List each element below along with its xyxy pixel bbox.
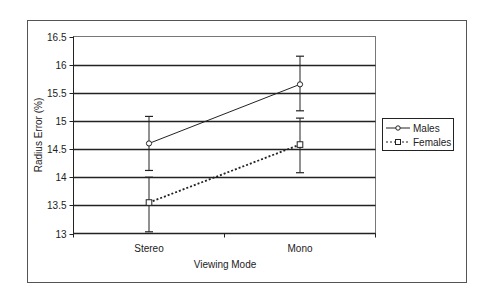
y-tick-label: 14: [55, 172, 67, 183]
x-tick-label: Stereo: [134, 243, 164, 254]
y-tick-label: 14.5: [47, 144, 67, 155]
square-marker-icon: [396, 140, 401, 145]
legend-males-label: Males: [413, 123, 440, 134]
y-tick-label: 13: [55, 229, 67, 240]
line-chart: 16.51615.51514.51413.513 StereoMono Radi…: [0, 0, 492, 297]
y-tick-label: 15.5: [47, 88, 67, 99]
data-point: [297, 82, 302, 87]
legend: Males Females: [383, 119, 454, 151]
data-point: [146, 141, 151, 146]
legend-females-label: Females: [413, 137, 451, 148]
y-tick-label: 16: [55, 60, 67, 71]
data-point: [297, 142, 303, 148]
y-tick-label: 15: [55, 116, 67, 127]
circle-marker-icon: [396, 126, 400, 130]
x-axis-title: Viewing Mode: [194, 259, 257, 270]
y-axis-title: Radius Error (%): [33, 98, 44, 172]
data-point: [146, 200, 152, 206]
y-tick-label: 13.5: [47, 200, 67, 211]
y-tick-label: 16.5: [47, 32, 67, 43]
x-tick-label: Mono: [287, 243, 312, 254]
